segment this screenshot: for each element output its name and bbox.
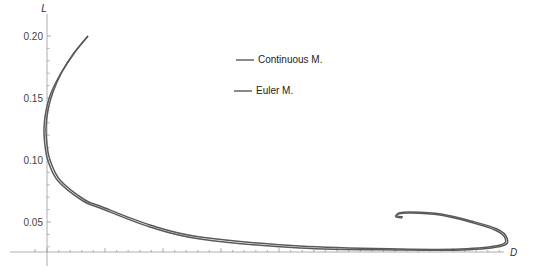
- y-axis-label: L: [41, 3, 47, 14]
- y-tick-label-0.15: 0.15: [24, 93, 44, 104]
- y-tick-label-0.20: 0.20: [24, 31, 44, 42]
- series-group: [44, 36, 508, 250]
- phase-plot: 0.20 0.15 0.10 0.05 L D Continuous M. Eu…: [0, 0, 539, 275]
- axes: [10, 14, 504, 266]
- series-line-euler: [44, 36, 508, 250]
- legend-label-continuous: Continuous M.: [258, 54, 322, 65]
- y-tick-label-0.10: 0.10: [24, 155, 44, 166]
- y-tick-label-0.05: 0.05: [24, 217, 44, 228]
- y-ticks: [47, 36, 51, 247]
- legend: Continuous M. Euler M.: [234, 54, 322, 96]
- x-axis-label: D: [510, 247, 517, 258]
- legend-label-euler: Euler M.: [256, 85, 293, 96]
- series-line-continuous: [46, 36, 506, 249]
